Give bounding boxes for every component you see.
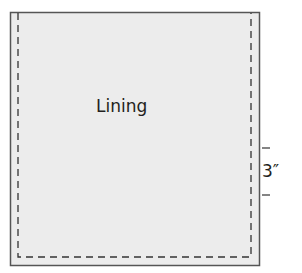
lining-diagram (0, 0, 302, 273)
lining-label: Lining (96, 96, 147, 116)
dimension-label: 3″ (262, 161, 279, 181)
lining-panel (11, 13, 260, 266)
